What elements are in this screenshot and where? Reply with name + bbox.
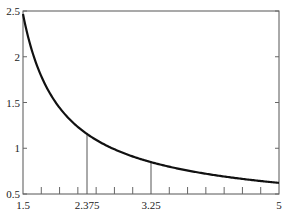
y-tick-label: 1: [15, 142, 21, 154]
x-tick-label: 3.25: [141, 199, 161, 211]
x-minor-ticks: [41, 11, 279, 194]
y-tick-label: 1.5: [6, 97, 20, 109]
x-tick-label: 2.375: [75, 199, 100, 211]
vertical-reference-lines: [87, 134, 151, 194]
x-tick-label: 5: [276, 199, 282, 211]
x-tick-label: 1.5: [16, 199, 30, 211]
x-axis-ticks: 1.52.3753.255: [16, 199, 282, 211]
function-curve: [23, 14, 279, 183]
chart-plot: 0.511.522.5 1.52.3753.255: [0, 0, 283, 219]
y-axis-ticks: 0.511.522.5: [6, 5, 27, 200]
y-tick-label: 2.5: [6, 5, 20, 17]
y-tick-label: 2: [15, 51, 21, 63]
